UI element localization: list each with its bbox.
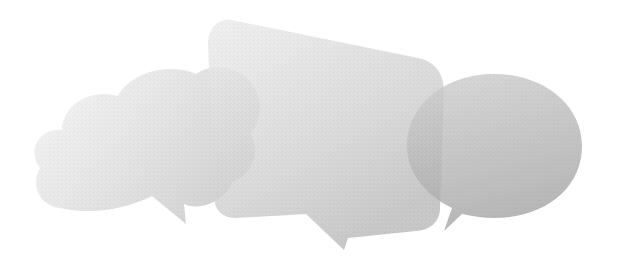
speech-bubbles-svg — [0, 0, 617, 262]
speech-bubbles-illustration: Three overlapping translucent gray speec… — [0, 0, 617, 262]
